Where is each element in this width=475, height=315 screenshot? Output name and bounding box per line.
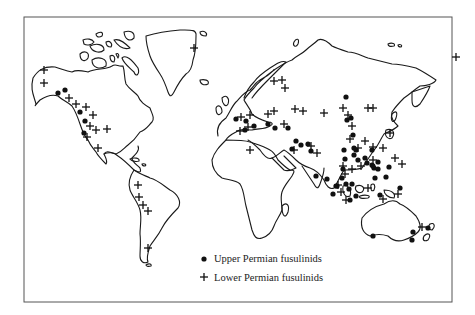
filled-circle-icon [201, 256, 206, 261]
lower-permian-locality-cross [398, 160, 406, 168]
legend-label: Lower Permian fusulinids [214, 272, 323, 283]
lower-permian-locality-cross [348, 165, 356, 173]
arctic-island [124, 31, 134, 40]
madagascar-outline [282, 204, 289, 216]
lower-permian-locality-cross [394, 190, 402, 198]
arctic-island [92, 58, 106, 68]
upper-permian-locality-dot [346, 186, 351, 191]
lower-permian-locality-cross [40, 79, 48, 87]
lower-permian-locality-cross [339, 162, 347, 170]
falkland-island [146, 264, 151, 267]
lower-permian-locality-cross [452, 53, 460, 61]
japan-outline [391, 112, 396, 122]
lower-permian-locality-cross [236, 127, 244, 135]
arctic-island [106, 41, 112, 47]
upper-permian-locality-dot [351, 152, 356, 157]
upper-permian-locality-dot [298, 142, 303, 147]
lower-permian-locality-cross [379, 144, 387, 152]
lower-permian-locality-cross [139, 201, 147, 209]
british-isles [216, 106, 222, 115]
lower-permian-locality-cross [89, 111, 97, 119]
lower-permian-locality-cross [348, 122, 356, 130]
legend: Upper Permian fusulinids Lower Permian f… [200, 253, 323, 283]
upper-permian-locality-dot [251, 123, 256, 128]
upper-permian-locality-dot [377, 192, 382, 197]
lower-permian-locality-cross [103, 125, 111, 133]
upper-permian-locality-dot [372, 175, 377, 180]
upper-permian-locality-dot [369, 147, 374, 152]
sea-island [359, 195, 369, 198]
caribbean-island [142, 164, 146, 166]
lower-permian-locality-cross [86, 122, 94, 130]
upper-permian-locality-dot [81, 130, 86, 135]
upper-permian-locality-dot [324, 176, 329, 181]
lower-permian-locality-cross [278, 76, 286, 84]
arctic-island [83, 39, 94, 45]
lower-permian-locality-cross [320, 109, 328, 117]
upper-permian-locality-dot [364, 160, 369, 165]
greenland-outline [146, 30, 196, 96]
upper-permian-locality-dot [343, 94, 348, 99]
lower-permian-locality-cross [281, 84, 289, 92]
lower-permian-locality-cross [337, 188, 345, 196]
south-america-outline [129, 170, 179, 263]
upper-permian-locality-dot [355, 157, 360, 162]
upper-permian-locality-dot [386, 164, 391, 169]
upper-permian-locality-dot [375, 166, 380, 171]
lower-permian-locality-cross [270, 77, 278, 85]
upper-permian-locality-dot [62, 87, 67, 92]
upper-permian-locality-dot [362, 155, 367, 160]
arctic-island [398, 45, 402, 47]
lower-permian-locality-cross [92, 126, 100, 134]
lower-permian-locality-cross [144, 207, 152, 215]
upper-permian-locality-dot [330, 191, 335, 196]
lower-permian-locality-cross [369, 104, 377, 112]
world-map-figure: Upper Permian fusulinids Lower Permian f… [0, 0, 475, 315]
lower-permian-locality-cross [342, 196, 350, 204]
upper-permian-locality-dot [425, 225, 430, 230]
upper-permian-locality-dot [397, 185, 402, 190]
arctic-island [90, 44, 104, 52]
lower-permian-locality-cross [82, 103, 90, 111]
upper-permian-locality-dot [383, 174, 388, 179]
australia-outline [361, 201, 420, 241]
sea-island [355, 185, 363, 192]
arctic-island [116, 53, 119, 58]
upper-permian-locality-dot [348, 115, 353, 120]
lower-permian-locality-cross [135, 193, 143, 201]
legend-item-upper-permian: Upper Permian fusulinids [201, 253, 322, 264]
sea-island [384, 190, 395, 198]
lower-permian-locality-cross [291, 105, 299, 113]
upper-permian-locality-dot [410, 229, 415, 234]
upper-permian-locality-dot [350, 132, 355, 137]
arctic-island [200, 80, 208, 85]
upper-permian-locality-dot [55, 90, 60, 95]
arctic-island [96, 32, 103, 37]
lower-permian-locality-cross [246, 111, 254, 119]
british-isles [222, 96, 229, 105]
caribbean-island [130, 158, 139, 161]
lower-permian-locality-cross [65, 94, 73, 102]
lower-permian-locality-cross [134, 181, 142, 189]
lower-permian-locality-cross [313, 149, 321, 157]
upper-permian-locality-dot [349, 181, 354, 186]
legend-label: Upper Permian fusulinids [214, 253, 322, 264]
upper-permian-locality-dot [370, 233, 375, 238]
legend-item-lower-permian: Lower Permian fusulinids [200, 272, 323, 283]
upper-permian-locality-dot [341, 147, 346, 152]
upper-permian-locality-dot [343, 181, 348, 186]
arctic-island [80, 52, 88, 61]
upper-permian-locality-dot [339, 175, 344, 180]
upper-permian-locality-dot [353, 193, 358, 198]
lower-permian-locality-cross [339, 104, 347, 112]
upper-permian-locality-dot [293, 138, 298, 143]
upper-permian-locality-dot [242, 127, 247, 132]
arctic-island [200, 31, 207, 36]
arctic-island [293, 39, 298, 46]
coastlines [32, 30, 436, 266]
africa-outline [212, 140, 294, 239]
upper-permian-locality-dot [370, 163, 375, 168]
lower-permian-locality-cross [361, 137, 369, 145]
upper-permian-markers [55, 87, 430, 242]
plus-icon [200, 273, 208, 281]
